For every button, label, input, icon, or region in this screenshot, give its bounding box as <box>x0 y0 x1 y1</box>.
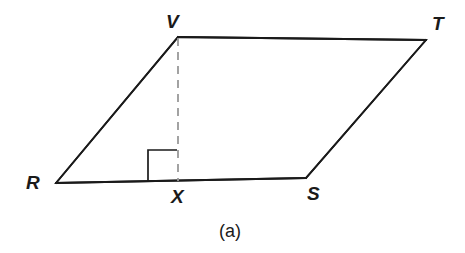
vertex-label-X: X <box>171 187 184 206</box>
edge-S-R <box>56 178 306 183</box>
geometry-figure: V T S R X (a) <box>0 0 465 253</box>
vertex-label-V: V <box>166 12 179 31</box>
vertex-label-T: T <box>432 14 444 33</box>
right-angle-marker <box>148 150 177 181</box>
vertex-label-S: S <box>307 184 320 203</box>
parallelogram-outline <box>56 37 426 183</box>
parallelogram-diagram-svg <box>0 0 465 253</box>
edge-T-S <box>306 40 426 178</box>
vertex-label-R: R <box>26 173 40 192</box>
edge-R-V <box>56 37 178 183</box>
edge-V-T <box>178 37 426 40</box>
figure-caption: (a) <box>219 222 241 240</box>
